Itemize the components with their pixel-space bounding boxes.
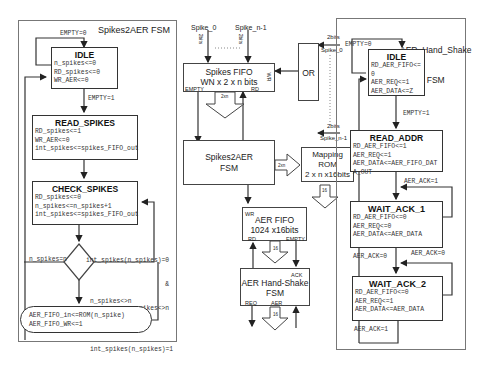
state-idle-action: n_spikes<=0 [54,60,117,69]
state-wait-ack-2-action: AER_REQ<=1 [355,298,442,307]
state-write-aer-action: AER_FIFO_WR<=1 [29,321,151,330]
state-wait-ack-2-title: WAIT_ACK_2 [353,279,442,289]
wait2-exit-label: AER_ACK=1 [354,326,388,334]
bus-16-label-2: 16 [273,246,278,251]
spike-n1-label: Spike_n-1 [235,24,267,31]
right-idle-loop-label: EMPTY=0 [345,41,371,49]
wait2-loop-label: AER_ACK=0 [411,250,445,258]
state-wait-ack-2-action: RD_AER_FIFO<=0 [355,289,442,298]
state-hs-idle-action: 0 [371,71,424,80]
bus-16-label: 16 [322,188,327,193]
spikes2aer-fsm-block: Spikes2AER FSM [183,140,275,185]
state-wait-ack-1-title: WAIT_ACK_1 [351,204,442,214]
state-hs-idle-action: RD_AER_FIFO<= [371,62,424,71]
spikes-fifo-rd-port: RD [251,84,259,94]
state-idle-action: WR_AER<=0 [54,77,117,86]
state-read-spikes-action: WR_AER<=0 [35,137,137,146]
spikes-fifo-title: Spikes FIFO [184,67,274,77]
state-idle-title: IDLE [52,50,117,60]
state-write-aer-action: AER_FIFO_in<=ROM(n_spike) [29,312,151,321]
state-read-addr: READ_ADDR RD_AER_FIFO<=1 AER_REQ<=1 AER_… [350,130,443,172]
wait1-loop-label: AER_ACK=1 [404,178,438,186]
spike-n1-width: 2bits [238,34,244,45]
bus-2xn-label-2: 2xn [278,163,285,168]
spike-0-width: 2bits [198,34,204,45]
state-read-spikes: READ_SPIKES RD_spikes<=1 WR_AER<=0 int_s… [32,115,138,160]
state-hs-idle-action: AER_DATA<=Z [371,88,424,97]
state-read-spikes-title: READ_SPIKES [33,118,137,128]
state-hs-idle-title: IDLE [369,52,424,62]
aer-fifo-block: AER FIFO 1024 x16bits WR RD EMPTY [242,207,307,241]
aer-fifo-wr-port: WR [245,209,254,219]
state-wait-ack-2-action: AER_DATA<=AER_DATA [355,306,442,315]
bus-16-label-3: 16 [273,312,278,317]
spike-0-label: Spike_0 [191,24,216,31]
spikes-fifo-block: Spikes FIFO WN x 2 x n bits EMPTY RD WR [183,63,275,92]
aer-fifo-empty-port: EMPTY [286,234,305,244]
state-wait-ack-2: WAIT_ACK_2 RD_AER_FIFO<=0 AER_REQ<=1 AER… [352,276,443,321]
state-read-addr-action: A_OUT [353,169,442,178]
state-read-addr-title: READ_ADDR [351,133,442,143]
state-wait-ack-1-action: AER_DATA<=AER_DATA [353,231,442,240]
state-check-spikes-action: int_spikes<=spikes_FIFO_out [35,211,137,220]
state-write-aer: AER_FIFO_in<=ROM(n_spike) AER_FIFO_WR<=1 [20,306,152,333]
state-wait-ack-1-action: AER_REQ<=0 [353,223,442,232]
state-read-addr-action: RD_AER_FIFO<=1 [353,143,442,152]
state-read-addr-action: AER_DATA<=AER_FIFO_DAT [353,160,442,169]
state-check-spikes: CHECK_SPIKES RD_spikes<=0 n_spikes<=n_sp… [32,181,138,225]
state-hs-idle: IDLE RD_AER_FIFO<= 0 AER_REQ<=1 AER_DATA… [368,49,425,96]
wait1-to-wait2-label: AER_ACK=0 [353,253,387,261]
state-check-spikes-title: CHECK_SPIKES [33,184,137,194]
state-check-spikes-action: RD_spikes<=0 [35,194,137,203]
handshake-ack-port: ACK [291,270,302,280]
handshake-aer-port: AER [271,298,282,308]
state-read-spikes-action: int_spikes<=spikes_FIFO_out [35,145,137,154]
handshake-req-port: REQ [245,298,257,308]
state-idle: IDLE n_spikes<=0 RD_spikes<=0 WR_AER<=0 [51,47,118,89]
decision-left-label: n_spikes=n [29,256,67,264]
left-fsm-title: Spikes2AER FSM [98,25,170,35]
left-idle-to-read-label: EMPTY=1 [88,95,114,103]
state-idle-action: RD_spikes<=0 [54,69,117,78]
spikes-fifo-wr-port: WR [264,72,274,81]
or-block: OR [298,43,319,101]
state-hs-idle-action: AER_REQ<=1 [371,79,424,88]
state-wait-ack-1: WAIT_ACK_1 RD_AER_FIFO<=0 AER_REQ<=0 AER… [350,201,443,248]
state-wait-ack-1-action: RD_AER_FIFO<=0 [353,214,442,223]
bus-2xn-label: 2xn [221,94,228,99]
state-check-spikes-action: n_spikes<=n_spikes+1 [35,203,137,212]
aer-fifo-rd-port: RD [248,234,256,244]
left-idle-loop-label: EMPTY=0 [60,30,86,38]
spikes-fifo-empty-port: EMPTY [185,84,204,94]
state-read-spikes-action: RD_spikes<=1 [35,128,137,137]
state-read-addr-action: AER_REQ<=1 [353,152,442,161]
aer-handshake-block: AER Hand-Shake FSM ACK REQ AER [240,268,310,306]
right-idle-to-read-label: EMPTY=1 [403,110,429,118]
